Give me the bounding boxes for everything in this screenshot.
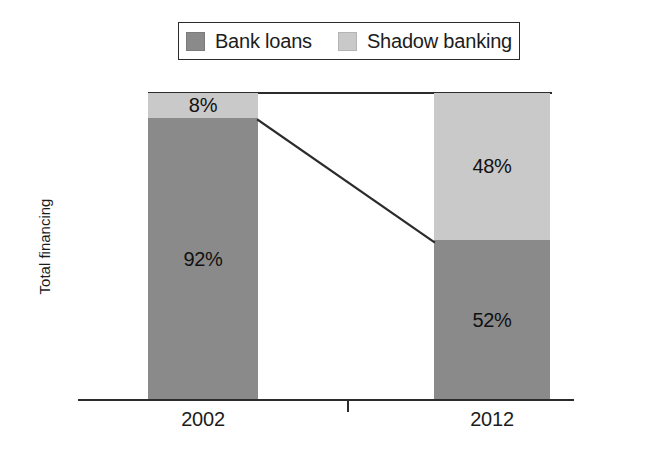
bar-2012[interactable]: 48% 52% [434, 93, 550, 400]
chart-canvas: Bank loans Shadow banking Total financin… [0, 0, 652, 454]
bar-segment-2012-shadow-banking[interactable]: 48% [434, 93, 550, 240]
data-label-2012-shadow-banking: 48% [472, 155, 511, 178]
x-axis-label-2012: 2012 [434, 408, 550, 431]
connector-line [0, 0, 652, 454]
x-axis-line [78, 399, 574, 401]
plot-area: 8% 92% 48% 52% 2002 2012 [0, 0, 652, 454]
bar-segment-2012-bank-loans[interactable]: 52% [434, 240, 550, 400]
bar-2002[interactable]: 8% 92% [148, 93, 258, 400]
x-axis-tick [347, 401, 349, 412]
data-label-2012-bank-loans: 52% [472, 309, 511, 332]
bar-segment-2002-bank-loans[interactable]: 92% [148, 118, 258, 400]
data-label-2002-shadow-banking: 8% [189, 94, 217, 117]
x-axis-label-2002: 2002 [148, 408, 258, 431]
bar-segment-2002-shadow-banking[interactable]: 8% [148, 93, 258, 118]
data-label-2002-bank-loans: 92% [183, 248, 222, 271]
